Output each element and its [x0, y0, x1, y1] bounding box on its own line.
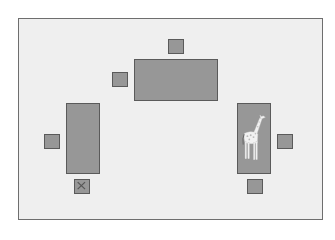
table-top[interactable] — [134, 59, 218, 101]
giraffe-icon — [238, 104, 270, 173]
chair-left-bottom-marked[interactable] — [74, 179, 90, 194]
chair-top-left[interactable] — [112, 72, 128, 87]
chair-right[interactable] — [277, 134, 293, 149]
table-right[interactable] — [237, 103, 271, 174]
table-left[interactable] — [66, 103, 100, 174]
chair-top[interactable] — [168, 39, 184, 54]
chair-left[interactable] — [44, 134, 60, 149]
x-mark-icon — [75, 180, 89, 193]
chair-right-bottom[interactable] — [247, 179, 263, 194]
